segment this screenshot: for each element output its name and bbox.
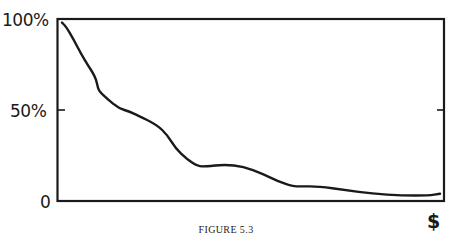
y-label-100: 100%: [2, 12, 49, 29]
figure-caption: FIGURE 5.3: [0, 224, 452, 235]
plot-frame: [58, 19, 445, 201]
y-label-0: 0: [40, 194, 50, 211]
chart-canvas: [0, 0, 452, 241]
y-label-50: 50%: [10, 103, 46, 120]
data-curve: [62, 23, 440, 196]
